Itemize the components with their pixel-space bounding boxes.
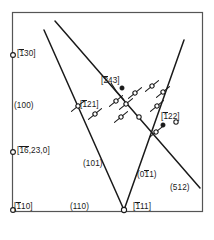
label-T121-overbar: 1 xyxy=(82,101,87,109)
label-T11-overbar: 1 xyxy=(135,203,140,211)
label-100: (100) xyxy=(14,102,34,110)
label-T10: [110] xyxy=(14,203,33,211)
label-T30: [130] xyxy=(17,50,36,58)
label-16-23-0: [16,23,0] xyxy=(17,147,50,155)
marker-open-tick-2 xyxy=(108,94,124,108)
marker-open-tick-6 xyxy=(144,79,160,93)
marker-16-23-0 xyxy=(11,150,16,155)
label-110: (110) xyxy=(70,203,89,211)
label-101: (101) xyxy=(83,160,103,168)
label-T243: [243] xyxy=(101,77,120,85)
label-T121: [121] xyxy=(80,101,99,109)
marker-filled-1 xyxy=(161,123,165,127)
marker-open-tick-9 xyxy=(155,85,171,99)
label-T11: [111] xyxy=(133,203,151,211)
label-T10-overbar: 1 xyxy=(16,203,21,211)
marker-open-tick-5 xyxy=(127,86,143,100)
label-011-overbar: 1 xyxy=(144,171,149,179)
marker-filled-0 xyxy=(120,86,124,90)
marker-open-tick-4 xyxy=(113,110,129,124)
marker-open-0 xyxy=(137,115,141,119)
label-16-23-0-overbar: 16 xyxy=(19,147,28,155)
label-011: (011) xyxy=(137,171,157,179)
label-T30-overbar: 1 xyxy=(19,50,24,58)
trace-101 xyxy=(44,30,124,210)
marker-T11 xyxy=(121,207,126,212)
label-T22: [122] xyxy=(161,113,180,121)
label-T22-overbar: 1 xyxy=(163,113,168,121)
marker-T30 xyxy=(11,53,16,58)
label-512: (512) xyxy=(170,184,190,192)
label-T243-overbar: 2 xyxy=(103,77,108,85)
